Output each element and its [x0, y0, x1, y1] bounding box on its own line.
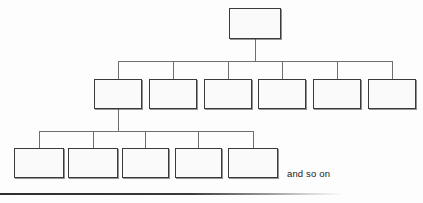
- level2-node-1[interactable]: [94, 79, 142, 109]
- bottom-divider: [0, 193, 345, 195]
- level3-node-5[interactable]: [228, 148, 278, 178]
- root-node[interactable]: [229, 8, 281, 39]
- level2-node-5[interactable]: [313, 79, 361, 109]
- level2-node-4[interactable]: [258, 79, 306, 109]
- level3-node-4[interactable]: [175, 148, 222, 178]
- level2-node-6[interactable]: [368, 79, 416, 109]
- level3-node-1[interactable]: [14, 148, 64, 178]
- level3-node-3[interactable]: [122, 148, 169, 178]
- and-so-on-caption: and so on: [287, 168, 330, 179]
- level2-node-3[interactable]: [204, 79, 252, 109]
- level3-node-2[interactable]: [68, 148, 118, 178]
- org-chart-diagram: and so on: [0, 0, 423, 203]
- level2-node-2[interactable]: [149, 79, 197, 109]
